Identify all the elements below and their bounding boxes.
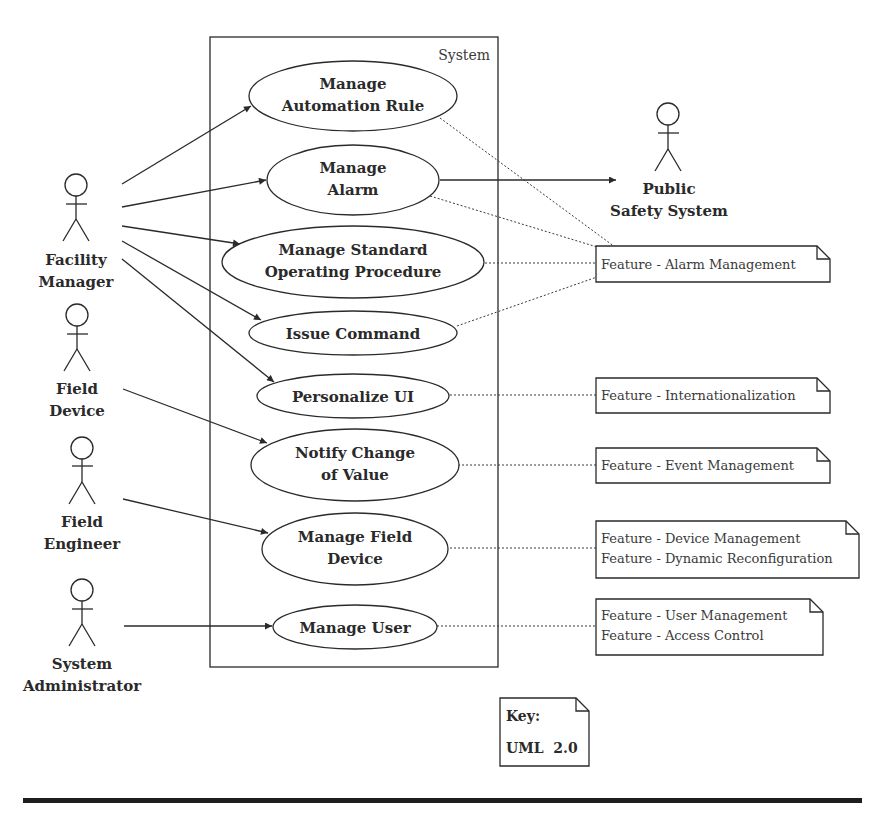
trace-issue-command bbox=[457, 277, 597, 326]
svg-text:Manage: Manage bbox=[320, 75, 387, 93]
svg-text:Automation Rule: Automation Rule bbox=[281, 97, 424, 115]
use-case-diagram: System Manage Automation Rule Manage Ala… bbox=[0, 0, 891, 817]
use-case-manage-sop[interactable]: Manage Standard Operating Procedure bbox=[222, 226, 484, 298]
use-case-manage-user[interactable]: Manage User bbox=[273, 605, 437, 649]
svg-text:Public: Public bbox=[642, 180, 695, 198]
stick-figure-icon bbox=[63, 174, 89, 241]
assoc-fd-notify-change bbox=[123, 389, 267, 443]
svg-text:Feature - User Management: Feature - User Management bbox=[601, 608, 788, 623]
svg-text:Notify Change: Notify Change bbox=[295, 444, 415, 462]
svg-text:Manage Standard: Manage Standard bbox=[278, 241, 428, 259]
svg-text:System: System bbox=[52, 655, 112, 673]
use-case-manage-field-device[interactable]: Manage Field Device bbox=[262, 513, 448, 585]
actor-system-administrator[interactable]: System Administrator bbox=[22, 579, 142, 695]
stick-figure-icon bbox=[64, 304, 90, 371]
assoc-fm-automation-rule bbox=[122, 106, 251, 184]
svg-text:Administrator: Administrator bbox=[22, 677, 142, 695]
note-device[interactable]: Feature - Device Management Feature - Dy… bbox=[596, 521, 859, 578]
svg-text:Facility: Facility bbox=[45, 251, 108, 269]
key-title: Key: bbox=[506, 708, 540, 724]
key-legend: Key: UML 2.0 bbox=[500, 698, 589, 766]
note-internationalization[interactable]: Feature - Internationalization bbox=[596, 378, 830, 413]
trace-lines bbox=[430, 118, 615, 626]
svg-text:Manager: Manager bbox=[39, 273, 115, 291]
use-case-manage-automation-rule[interactable]: Manage Automation Rule bbox=[249, 61, 457, 131]
assoc-fe-manage-field-device bbox=[123, 499, 268, 533]
actor-field-engineer[interactable]: Field Engineer bbox=[44, 437, 122, 553]
svg-text:Manage User: Manage User bbox=[299, 619, 411, 637]
actor-facility-manager[interactable]: Facility Manager bbox=[39, 174, 115, 291]
bottom-rule-divider bbox=[23, 798, 862, 803]
svg-text:Alarm: Alarm bbox=[327, 181, 379, 199]
svg-text:Feature - Device Management: Feature - Device Management bbox=[601, 531, 801, 546]
stick-figure-icon bbox=[69, 437, 95, 504]
svg-text:Field: Field bbox=[61, 513, 104, 531]
svg-text:Personalize UI: Personalize UI bbox=[292, 388, 414, 406]
assoc-fm-manage-alarm bbox=[122, 180, 266, 207]
note-event-management[interactable]: Feature - Event Management bbox=[596, 448, 830, 483]
actor-public-safety-system[interactable]: Public Safety System bbox=[610, 103, 728, 220]
key-value: UML 2.0 bbox=[506, 740, 578, 756]
svg-text:Manage: Manage bbox=[320, 159, 387, 177]
assoc-fm-sop bbox=[122, 226, 240, 244]
trace-automation-rule bbox=[440, 118, 615, 247]
use-case-notify-change-of-value[interactable]: Notify Change of Value bbox=[251, 429, 459, 501]
svg-text:Operating Procedure: Operating Procedure bbox=[265, 263, 442, 281]
svg-text:Manage Field: Manage Field bbox=[298, 528, 413, 546]
svg-text:Feature - Internationalization: Feature - Internationalization bbox=[601, 388, 796, 403]
svg-text:Device: Device bbox=[327, 550, 383, 568]
svg-text:Feature - Alarm Management: Feature - Alarm Management bbox=[601, 257, 796, 272]
svg-text:Field: Field bbox=[56, 380, 99, 398]
use-case-personalize-ui[interactable]: Personalize UI bbox=[257, 374, 449, 418]
svg-text:Engineer: Engineer bbox=[44, 535, 122, 553]
svg-text:Feature - Access Control: Feature - Access Control bbox=[601, 628, 764, 643]
note-alarm-management[interactable]: Feature - Alarm Management bbox=[596, 246, 830, 282]
system-boundary-label: System bbox=[438, 47, 490, 63]
use-case-issue-command[interactable]: Issue Command bbox=[249, 311, 457, 355]
svg-text:Issue Command: Issue Command bbox=[286, 325, 421, 343]
svg-text:Feature - Dynamic Reconfigurat: Feature - Dynamic Reconfiguration bbox=[601, 551, 833, 566]
actor-field-device[interactable]: Field Device bbox=[49, 304, 105, 420]
stick-figure-icon bbox=[69, 579, 95, 646]
svg-text:Feature - Event Management: Feature - Event Management bbox=[601, 458, 795, 473]
note-user[interactable]: Feature - User Management Feature - Acce… bbox=[596, 599, 823, 655]
svg-text:Safety System: Safety System bbox=[610, 202, 728, 220]
svg-text:of Value: of Value bbox=[321, 466, 389, 484]
use-case-manage-alarm[interactable]: Manage Alarm bbox=[267, 145, 439, 215]
stick-figure-icon bbox=[655, 103, 681, 171]
svg-text:Device: Device bbox=[49, 402, 105, 420]
